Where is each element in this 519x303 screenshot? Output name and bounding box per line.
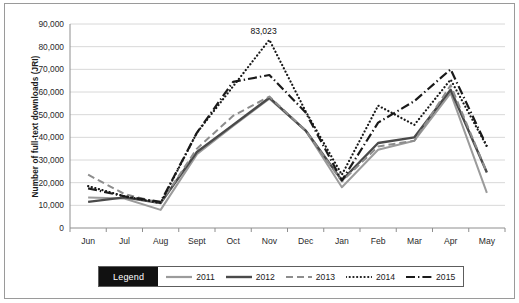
legend-entry-2011[interactable]: 2011 <box>166 272 214 282</box>
legend-entry-2013[interactable]: 2013 <box>286 272 335 282</box>
legend-entry-2015[interactable]: 2015 <box>406 272 455 282</box>
legend-label: 2013 <box>316 272 335 282</box>
y-tick-label: 40,000 <box>12 132 64 142</box>
y-tick-label: 0 <box>12 223 64 233</box>
chart-legend: Legend 20112012201320142015 <box>98 266 464 287</box>
y-tick-label: 20,000 <box>12 178 64 188</box>
legend-swatch-2015 <box>406 272 432 282</box>
data-series-group <box>88 40 487 210</box>
legend-label: 2014 <box>376 272 395 282</box>
series-line-2012 <box>88 90 487 203</box>
chart-figure: Number of full-text downloads (JRI) 010,… <box>0 0 519 303</box>
y-tick-label: 70,000 <box>12 64 64 74</box>
legend-swatch-2014 <box>346 272 372 282</box>
series-line-2015 <box>88 69 487 202</box>
legend-label: 2015 <box>436 272 455 282</box>
y-tick-label: 80,000 <box>12 42 64 52</box>
y-tick-label: 90,000 <box>12 19 64 29</box>
legend-swatch-2011 <box>166 272 192 282</box>
legend-entries: 20112012201320142015 <box>158 267 463 286</box>
line-chart-svg <box>0 0 519 303</box>
legend-entry-2014[interactable]: 2014 <box>346 272 395 282</box>
y-tick-label: 60,000 <box>12 87 64 97</box>
legend-swatch-2012 <box>226 272 252 282</box>
legend-label: 2011 <box>196 272 214 282</box>
legend-swatch-2013 <box>286 272 312 282</box>
axis-ticks <box>70 228 505 232</box>
legend-entry-2012[interactable]: 2012 <box>226 272 275 282</box>
y-axis-title: Number of full-text downloads (JRI) <box>31 32 40 222</box>
y-tick-label: 10,000 <box>12 200 64 210</box>
legend-title: Legend <box>99 267 158 286</box>
x-tick-label: May <box>464 236 510 246</box>
y-tick-label: 30,000 <box>12 155 64 165</box>
legend-label: 2012 <box>256 272 275 282</box>
plot-area: Number of full-text downloads (JRI) 010,… <box>0 0 519 303</box>
series-line-2013 <box>88 85 487 203</box>
data-label: 83,023 <box>250 26 276 36</box>
y-tick-label: 50,000 <box>12 110 64 120</box>
